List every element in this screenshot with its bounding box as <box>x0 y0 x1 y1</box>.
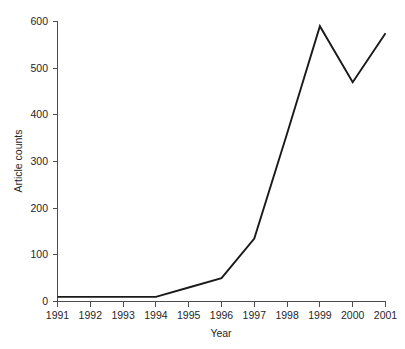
y-tick-label-200: 200 <box>30 202 48 214</box>
y-tick-label-500: 500 <box>30 62 48 74</box>
x-axis-title: Year <box>210 327 232 339</box>
x-tick-label-1992: 1992 <box>79 309 103 321</box>
x-tick-label-1995: 1995 <box>177 309 201 321</box>
x-axis-tick-labels: 1991 1992 1993 1994 1995 1996 1997 1998 … <box>46 309 398 321</box>
chart-canvas: 0 100 200 300 400 500 600 1991 1992 1 <box>0 0 405 349</box>
y-tick-label-0: 0 <box>42 295 48 307</box>
x-tick-label-1994: 1994 <box>144 309 168 321</box>
x-tick-label-1996: 1996 <box>210 309 234 321</box>
y-tick-label-100: 100 <box>30 248 48 260</box>
y-tick-label-400: 400 <box>30 108 48 120</box>
line-chart: 0 100 200 300 400 500 600 1991 1992 1 <box>0 0 405 349</box>
x-tick-label-1993: 1993 <box>111 309 135 321</box>
y-axis-title: Article counts <box>12 129 24 192</box>
x-tick-label-2001: 2001 <box>374 309 398 321</box>
x-tick-label-2000: 2000 <box>341 309 365 321</box>
x-tick-label-1991: 1991 <box>46 309 70 321</box>
y-tick-label-300: 300 <box>30 155 48 167</box>
y-tick-label-600: 600 <box>30 15 48 27</box>
x-tick-label-1997: 1997 <box>243 309 267 321</box>
x-tick-label-1999: 1999 <box>308 309 332 321</box>
x-tick-label-1998: 1998 <box>275 309 299 321</box>
